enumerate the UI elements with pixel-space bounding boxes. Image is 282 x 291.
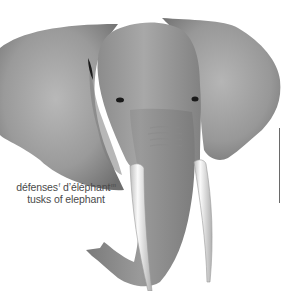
label-english: tusks of elephant [0, 193, 132, 206]
label-french-word2: d’éléphant [63, 181, 110, 193]
gender-marker-masculine: m [111, 182, 116, 188]
elephant-illustration [0, 0, 282, 291]
page-edge-line [279, 128, 280, 203]
right-eye [192, 97, 199, 102]
label-french-word1: défenses [16, 181, 58, 193]
right-tusk [194, 160, 212, 282]
gender-marker-feminine: f [59, 182, 61, 188]
label-french: défensesf d’éléphantm [0, 179, 132, 194]
left-eye [116, 98, 124, 103]
